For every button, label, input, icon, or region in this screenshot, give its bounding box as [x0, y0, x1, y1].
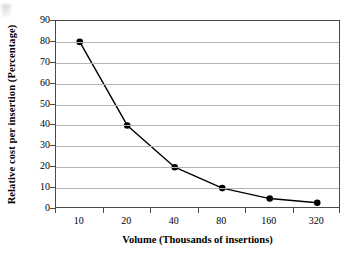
- x-axis-tick-labels: 10204080160320: [55, 215, 340, 229]
- x-axis-tick-mark: [293, 208, 294, 213]
- y-axis-title-text: Relative cost per insertion (Percentage): [7, 24, 18, 204]
- gridline: [56, 63, 339, 64]
- y-axis-tick-label: 50: [26, 99, 50, 109]
- x-axis-tick-mark: [245, 208, 246, 213]
- gridline: [56, 42, 339, 43]
- data-series-layer: [56, 21, 341, 209]
- y-axis-title: Relative cost per insertion (Percentage): [0, 0, 24, 228]
- x-axis-tick-label: 40: [154, 215, 194, 227]
- series-line: [80, 42, 318, 203]
- plot-area: [55, 20, 340, 208]
- data-point: [266, 195, 273, 202]
- x-axis-tick-mark: [198, 208, 199, 213]
- y-axis-tick-label: 80: [26, 36, 50, 46]
- gridline: [56, 167, 339, 168]
- x-axis-tick-label: 10: [59, 215, 99, 227]
- y-axis-tick-label: 60: [26, 78, 50, 88]
- y-axis-tick-label: 90: [26, 15, 50, 25]
- gridline: [56, 146, 339, 147]
- y-axis-tick-label: 10: [26, 182, 50, 192]
- x-axis-tick-mark: [150, 208, 151, 213]
- gridline: [56, 84, 339, 85]
- x-axis-tick-label: 160: [249, 215, 289, 227]
- x-axis-tick-label: 80: [201, 215, 241, 227]
- gridline: [56, 188, 339, 189]
- data-point: [314, 199, 321, 206]
- x-axis-tick-label: 320: [296, 215, 336, 227]
- y-axis-tick-label: 20: [26, 161, 50, 171]
- y-axis-tick-label: 0: [26, 203, 50, 213]
- y-axis-tick-labels: 0102030405060708090: [26, 20, 50, 208]
- x-axis-tick-mark: [339, 208, 340, 213]
- x-axis-tick-label: 20: [106, 215, 146, 227]
- gridline: [56, 125, 339, 126]
- x-axis-title: Volume (Thousands of insertions): [55, 234, 340, 245]
- y-axis-tick-label: 40: [26, 119, 50, 129]
- y-axis-tick-label: 70: [26, 57, 50, 67]
- y-axis-tick-label: 30: [26, 140, 50, 150]
- x-axis-tick-mark: [103, 208, 104, 213]
- gridline: [56, 105, 339, 106]
- x-axis-tick-marks: [55, 208, 340, 214]
- x-axis-tick-mark: [55, 208, 56, 213]
